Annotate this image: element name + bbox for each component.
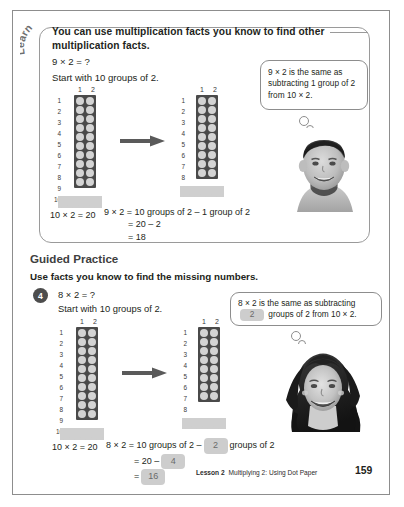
dot-grid-row [78,347,96,355]
dot-icon [208,142,216,150]
dot-icon [198,133,206,141]
dot-grid-col-header: 2 [91,86,95,93]
dot-grid-row-label: 1 [178,327,187,338]
gp-solution-line2-pre: = 20 – [134,456,159,466]
gp-callout-answer-blank[interactable]: 2 [240,309,264,320]
gp-solution-line1-pre: 8 × 2 = 10 groups of 2 – [106,440,202,450]
dot-grid-row [78,401,96,409]
dot-grid-row-label: 5 [176,139,185,150]
dot-grid-row-label: 2 [52,106,61,117]
dot-icon [198,169,206,177]
dot-icon [198,115,206,123]
arrow-right-icon [120,134,166,148]
gp-solution-line2: = 20 –4 [106,454,275,470]
dot-grid-row-label: 8 [176,172,185,183]
dot-grid-row-label: 9 [52,183,61,194]
dot-icon [208,160,216,168]
dot-icon [76,178,84,186]
guided-practice-title: Guided Practice [30,252,118,265]
dot-grid-row [76,124,94,132]
dot-grid-row [78,374,96,382]
dot-grid-row-label: 2 [178,338,187,349]
dot-grid-row [76,106,94,114]
dot-grid-row-label: 8 [52,172,61,183]
dot-icon [88,356,96,364]
dot-grid-row [200,383,218,391]
dot-icon [210,392,218,400]
learn-start-line: Start with 10 groups of 2. [52,72,159,83]
dot-icon [76,115,84,123]
dot-grid-row [78,365,96,373]
gp-callout: 8 × 2 is the same as subtracting 2 group… [230,292,382,326]
dot-icon [210,329,218,337]
dot-icon [208,124,216,132]
dot-icon [200,338,208,346]
dot-grid-row [78,329,96,337]
textbook-page: Learn You can use multiplication facts y… [0,0,404,507]
footer-title: Multiplying 2: Using Dot Paper [229,469,318,476]
dot-icon [208,133,216,141]
dot-grid-row [76,142,94,150]
dot-grid-row [200,374,218,382]
dot-grid-row [198,115,216,123]
dot-icon [88,338,96,346]
dot-grid-row-label: 7 [178,393,187,404]
dot-grid-row [200,347,218,355]
dot-icon [86,106,94,114]
dot-icon [200,383,208,391]
dot-grid-row [198,151,216,159]
dot-grid-row-label: 4 [176,128,185,139]
dot-grid-row-label: 5 [54,371,63,382]
dot-grid-row [76,151,94,159]
learn-solution-line1: 9 × 2 = 10 groups of 2 – 1 group of 2 [104,206,250,218]
dot-grid-row [198,106,216,114]
dot-icon [198,124,206,132]
dot-icon [76,151,84,159]
dot-icon [86,142,94,150]
dot-grid-row [200,365,218,373]
dot-grid-row [200,356,218,364]
dot-grid-col-header: 2 [93,318,97,325]
dot-grid-row [78,410,96,418]
dot-icon [88,401,96,409]
gp-answer-blank-2[interactable]: 4 [161,454,185,470]
page-gutter [0,0,12,507]
footer-lesson: Lesson 2 [196,469,225,476]
dot-grid-row [200,392,218,400]
dot-icon [78,374,86,382]
dot-grid-cells [198,327,220,402]
dot-icon [76,169,84,177]
dot-icon [86,124,94,132]
dot-icon [210,374,218,382]
dot-grid-row [76,169,94,177]
dot-icon [78,365,86,373]
torn-edge-icon [58,204,102,209]
dot-icon [200,347,208,355]
dot-icon [208,151,216,159]
dot-icon [86,169,94,177]
dot-icon [208,106,216,114]
dot-grid-col-header: 2 [213,86,217,93]
dot-icon [200,392,208,400]
learn-heading: You can use multiplication facts you kno… [52,25,352,52]
dot-icon [78,383,86,391]
gp-answer-blank-3[interactable]: 16 [141,469,165,485]
dot-icon [198,106,206,114]
dot-grid-row-label: 4 [54,360,63,371]
dot-grid-col-header: 2 [215,318,219,325]
dot-icon [208,115,216,123]
dot-grid-row-label: 3 [54,349,63,360]
gp-answer-blank-1[interactable]: 2 [204,438,228,454]
svg-text:Learn: Learn [20,22,34,56]
dot-icon [198,160,206,168]
dot-icon [210,365,218,373]
dot-grid-row [198,97,216,105]
page-number: 159 [355,465,372,476]
dot-grid-row-label: 3 [178,349,187,360]
dot-grid-row [76,133,94,141]
dot-grid-row-labels: 12345678910 [54,327,63,437]
question-number-badge: 4 [33,288,48,303]
dot-icon [86,133,94,141]
dot-icon [200,374,208,382]
dot-grid-row-label: 3 [52,117,61,128]
